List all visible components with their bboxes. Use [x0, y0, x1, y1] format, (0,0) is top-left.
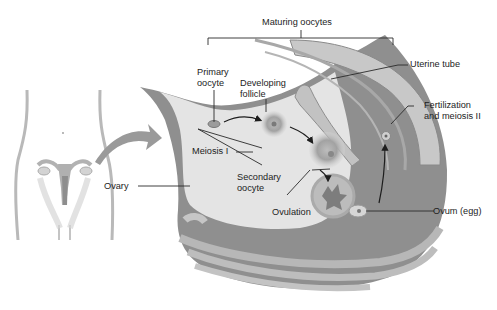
- label-primary-oocyte-line2: oocyte: [197, 78, 224, 89]
- oogenesis-diagram: Maturing oocytes Uterine tube Primary oo…: [0, 0, 497, 310]
- label-maturing-oocytes: Maturing oocytes: [262, 17, 332, 28]
- label-secondary-oocyte-line1: Secondary: [237, 172, 281, 183]
- label-developing-follicle-line1: Developing: [240, 78, 286, 89]
- label-secondary-oocyte-line2: oocyte: [237, 183, 264, 194]
- label-fertilization-line1: Fertilization: [424, 100, 471, 111]
- label-ovulation: Ovulation: [272, 207, 311, 218]
- diagram-artwork: [0, 0, 497, 310]
- label-uterine-tube: Uterine tube: [410, 59, 460, 70]
- label-ovum: Ovum (egg): [433, 206, 482, 217]
- label-meiosis-i: Meiosis I: [192, 146, 228, 157]
- ovary-cross-section: [140, 35, 447, 289]
- label-ovary: Ovary: [104, 181, 129, 192]
- label-developing-follicle-line2: follicle: [240, 89, 266, 100]
- label-fertilization-line2: and meiosis II: [424, 111, 481, 122]
- secondary-follicle-cell: [309, 132, 345, 168]
- label-primary-oocyte-line1: Primary: [197, 67, 229, 78]
